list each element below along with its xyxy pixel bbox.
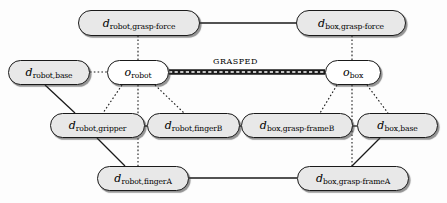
node-label-subscript: robot,fingerB <box>172 124 223 133</box>
graph-node-d-robot-fingerA[interactable]: drobot,fingerA <box>97 166 189 191</box>
edge-e-robot-gripper <box>103 85 122 113</box>
node-label-subscript: robot <box>131 71 151 80</box>
node-label: drobot,fingerA <box>114 173 172 184</box>
node-label: dbox,grasp-frameA <box>316 173 390 184</box>
node-label-main: d <box>103 17 110 30</box>
graph-node-d-robot-gripper[interactable]: drobot,gripper <box>50 113 145 138</box>
diagram-canvas: drobot,grasp-forcedbox,grasp-forceorobot… <box>0 0 447 203</box>
node-label-main: d <box>260 119 267 132</box>
graph-node-d-robot-fingerB[interactable]: drobot,fingerB <box>147 113 240 138</box>
node-label: obox <box>343 67 363 78</box>
edge-e-robot-fingerB <box>155 85 184 113</box>
graph-node-d-box-grasp-frameB[interactable]: dbox,grasp-frameB <box>241 113 353 138</box>
node-label-subscript: box,grasp-force <box>325 22 384 31</box>
edge-label-grasped-label: GRASPED <box>213 57 258 66</box>
node-label: dbox,grasp-frameB <box>260 120 334 131</box>
node-label-subscript: box <box>350 71 363 80</box>
node-label-main: d <box>165 119 172 132</box>
node-label-subscript: robot,grasp-force <box>110 22 176 31</box>
node-label-main: o <box>343 66 350 79</box>
node-label-main: d <box>377 119 384 132</box>
graph-node-d-robot-grasp-force[interactable]: drobot,grasp-force <box>78 10 200 36</box>
node-label: drobot,fingerB <box>165 120 223 131</box>
node-label-subscript: robot,base <box>33 71 73 80</box>
edge-e-box-frameB <box>320 85 337 113</box>
node-label-main: d <box>69 119 76 132</box>
graph-node-d-box-grasp-frameA[interactable]: dbox,grasp-frameA <box>297 166 409 191</box>
node-label-subscript: robot,gripper <box>76 124 127 133</box>
edge-e-box-boxbase <box>367 85 388 113</box>
edge-e-base-gripper <box>45 85 75 113</box>
node-label-subscript: box,grasp-frameB <box>267 124 334 133</box>
node-label-main: d <box>25 66 32 79</box>
node-label: drobot,gripper <box>69 120 127 131</box>
node-label-subscript: box,base <box>385 124 418 133</box>
graph-node-o-box[interactable]: obox <box>325 60 381 85</box>
edge-e-boxbase-frameA <box>352 138 380 166</box>
node-label: drobot,base <box>25 67 72 78</box>
graph-node-d-robot-base[interactable]: drobot,base <box>8 60 90 85</box>
graph-node-d-box-base[interactable]: dbox,base <box>357 113 438 138</box>
node-label: dbox,grasp-force <box>318 18 384 29</box>
node-label: drobot,grasp-force <box>103 18 176 29</box>
graph-node-o-robot[interactable]: orobot <box>107 60 169 85</box>
node-label: orobot <box>125 67 152 78</box>
graph-node-d-box-grasp-force[interactable]: dbox,grasp-force <box>296 10 406 36</box>
edge-e-gripper-fingerA <box>97 138 125 166</box>
node-label-subscript: robot,fingerA <box>121 177 171 186</box>
node-label: dbox,base <box>377 120 417 131</box>
node-label-subscript: box,grasp-frameA <box>323 177 390 186</box>
node-label-main: d <box>316 172 323 185</box>
